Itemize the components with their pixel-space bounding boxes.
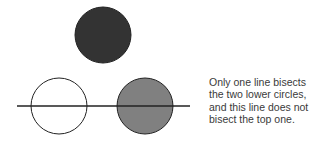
caption-line: the two lower circles, xyxy=(209,88,329,100)
caption-line: bisect the top one. xyxy=(209,113,329,125)
caption: Only one line bisects the two lower circ… xyxy=(209,76,329,125)
top-circle xyxy=(75,7,131,63)
caption-line: and this line does not xyxy=(209,101,329,113)
caption-line: Only one line bisects xyxy=(209,76,329,88)
